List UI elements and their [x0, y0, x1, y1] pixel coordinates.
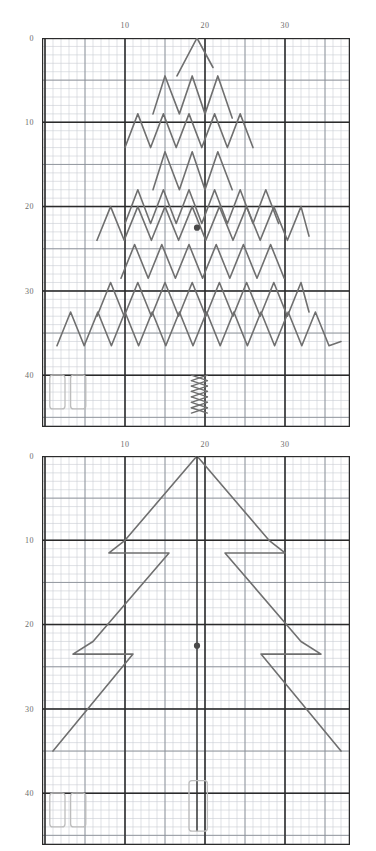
row-7	[121, 245, 284, 279]
plot-area-top	[42, 38, 350, 427]
x-tick-label-10-top: 10	[121, 21, 130, 30]
y-tick-label-10-top: 10	[14, 118, 34, 127]
plot-svg-top	[42, 38, 350, 427]
y-tick-label-20-top: 20	[14, 202, 34, 211]
x-tick-label-10-bottom: 10	[121, 440, 130, 449]
x-tick-label-20-top: 20	[201, 21, 210, 30]
center-point-marker	[194, 225, 200, 231]
x-tick-label-20-bottom: 20	[201, 440, 210, 449]
y-tick-label-40-top: 40	[14, 371, 34, 380]
y-tick-label-0-bottom: 0	[20, 452, 34, 461]
row-9	[57, 312, 341, 346]
y-tick-label-0-top: 0	[20, 34, 34, 43]
y-tick-label-30-bottom: 30	[14, 705, 34, 714]
y-tick-label-20-bottom: 20	[14, 620, 34, 629]
chart-bottom: 10 20 30 0 10 20 30 40	[0, 418, 376, 851]
chart-top: 10 20 30 0 10 20 30 40	[0, 0, 376, 436]
x-tick-label-30-bottom: 30	[281, 440, 290, 449]
plot-area-bottom	[42, 456, 350, 845]
x-tick-label-30-top: 30	[281, 21, 290, 30]
row-1-peak	[177, 38, 213, 76]
y-tick-label-30-top: 30	[14, 287, 34, 296]
grid-lines	[42, 38, 350, 427]
y-tick-label-40-bottom: 40	[14, 789, 34, 798]
plot-svg-bottom	[42, 456, 350, 845]
y-tick-label-10-bottom: 10	[14, 536, 34, 545]
center-point-marker	[194, 643, 200, 649]
grid-lines	[42, 456, 350, 845]
